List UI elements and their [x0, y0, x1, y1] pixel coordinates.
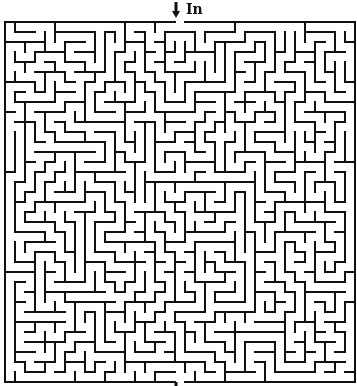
exit-arrow-icon — [172, 382, 180, 386]
maze-grid[interactable] — [0, 0, 357, 386]
entrance-arrow-icon — [172, 2, 180, 18]
entrance-label: In — [186, 1, 203, 17]
